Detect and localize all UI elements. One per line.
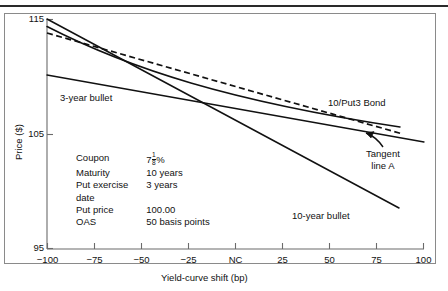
- price-vs-yield-curve-shift-chart: 115 105 95 Price ($) −100 −75 −50 −25 NC…: [0, 0, 448, 291]
- x-axis-title: Yield-curve shift (bp): [161, 272, 248, 283]
- x-tick-label-25: 25: [258, 254, 307, 265]
- coupon-percent-sign: %: [156, 154, 164, 165]
- series-label-10-put3-bond: 10/Put3 Bond: [328, 97, 386, 108]
- param-key-oas: OAS: [76, 216, 146, 228]
- param-value-put-price: 100.00: [146, 204, 209, 216]
- param-row-maturity: Maturity 10 years: [76, 167, 210, 179]
- x-tick-label-nc: NC: [211, 254, 260, 265]
- x-tick-label--100: −100: [21, 254, 74, 265]
- series-label-10-year-bullet: 10-year bullet: [292, 210, 350, 221]
- y-axis-title: Price ($): [13, 124, 24, 160]
- x-axis-ticks: [48, 243, 424, 249]
- param-key-coupon: Coupon: [76, 152, 146, 167]
- series-label-3-year-bullet: 3-year bullet: [60, 92, 112, 103]
- param-row-put-price: Put price 100.00: [76, 204, 210, 216]
- x-tick-label-50: 50: [305, 254, 354, 265]
- coupon-whole: 7: [146, 154, 151, 165]
- x-tick-label--75: −75: [70, 254, 119, 265]
- tangent-label-line-2: line A: [371, 160, 394, 171]
- param-row-oas: OAS 50 basis points: [76, 216, 210, 228]
- param-row-put-exercise: Put exercise 3 years: [76, 179, 210, 191]
- param-value-put-exercise: 3 years: [146, 179, 209, 191]
- series-label-tangent-line-a: Tangent line A: [366, 148, 400, 171]
- param-value-maturity: 10 years: [146, 167, 209, 179]
- series-line-3-year-bullet: [47, 75, 424, 142]
- tangent-label-line-1: Tangent: [366, 148, 400, 159]
- series-line-10-put3-bond: [47, 27, 400, 128]
- x-tick-label-75: 75: [352, 254, 401, 265]
- param-key-put-exercise: Put exercise: [76, 179, 146, 191]
- param-key-maturity: Maturity: [76, 167, 146, 179]
- param-value-put-exercise-date: [146, 192, 209, 204]
- param-row-put-exercise-date-cont: date: [76, 192, 210, 204]
- param-key-put-exercise-date: date: [76, 192, 146, 204]
- param-value-coupon: 718%: [146, 152, 209, 167]
- plot-canvas: [0, 0, 448, 291]
- param-key-put-price: Put price: [76, 204, 146, 216]
- y-tick-label-95: 95: [18, 242, 44, 253]
- bond-parameters-table: Coupon 718% Maturity 10 years Put exerci…: [76, 152, 210, 229]
- param-row-coupon: Coupon 718%: [76, 152, 210, 167]
- x-tick-label-100: 100: [399, 254, 448, 265]
- x-tick-label--50: −50: [117, 254, 166, 265]
- y-axis-ticks: [47, 20, 53, 249]
- x-tick-label--25: −25: [164, 254, 213, 265]
- y-tick-label-115: 115: [18, 13, 44, 24]
- param-value-oas: 50 basis points: [146, 216, 209, 228]
